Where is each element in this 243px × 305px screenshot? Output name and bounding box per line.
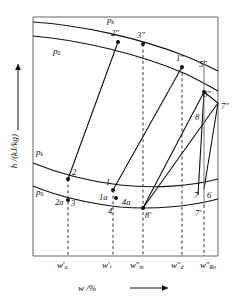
axis-arrows <box>18 64 168 288</box>
state-point-5dprime: 5″ <box>199 60 207 69</box>
state-point-8: 8 <box>195 113 199 122</box>
vapor-isobar-p0 <box>33 36 218 91</box>
isobar-label-p0-liquid: p0 <box>36 188 43 198</box>
state-point-7prime: 7′ <box>195 209 201 218</box>
state-point-3: 3 <box>71 199 75 208</box>
isobar-label-p0-vapor: p0 <box>53 47 60 57</box>
state-point-2dprime: 2″ <box>111 29 119 38</box>
vapor-isobar-pk <box>33 22 218 71</box>
y-axis-label: h /(kJ/kg) <box>9 111 19 191</box>
state-point-8dprime: 8″ <box>203 90 211 99</box>
state-point-1dprime: 1″ <box>176 54 184 63</box>
state-point-7: 7 <box>194 191 198 200</box>
state-point-6: 6 <box>207 191 211 200</box>
state-point-4: 4 <box>108 207 112 216</box>
state-point-1: 1 <box>106 178 110 187</box>
x-tick-wm: w″m <box>130 261 144 271</box>
x-tick-wRn: w″Rn <box>200 261 216 271</box>
state-point-2a: 2a <box>55 198 64 207</box>
state-point-1a: 1a <box>99 193 108 202</box>
x-tick-wa: w′a <box>57 261 67 271</box>
liquid-isobar-pk <box>33 163 218 187</box>
diagram-root: pk p0 pk p0 2″ 3″ 1″ 5″ 8″ 7″ 8 2 1 1a 4… <box>0 0 243 305</box>
state-point-4a: 4a <box>122 198 131 207</box>
x-tick-wd: w″d <box>171 261 183 271</box>
state-point-7dprime: 7″ <box>221 102 229 111</box>
x-tick-wr: w′r <box>102 261 112 271</box>
state-point-3dprime: 3″ <box>137 31 145 40</box>
isobar-label-pk-liquid: pk <box>36 148 43 158</box>
isobar-label-pk-vapor: pk <box>107 16 114 26</box>
state-point-8prime: 8′ <box>145 211 151 220</box>
state-point-2: 2 <box>72 168 76 177</box>
x-axis-label: w /% <box>78 283 96 293</box>
